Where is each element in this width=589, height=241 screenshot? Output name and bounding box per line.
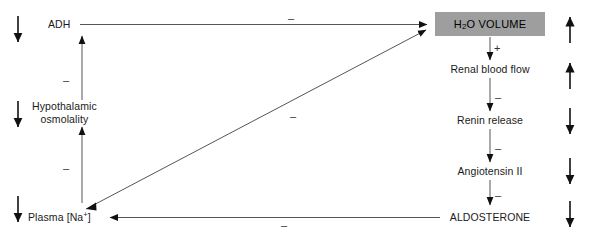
- node-renin-release-label: Renin release: [457, 114, 523, 126]
- node-angiotensin-ii-label: Angiotensin II: [457, 165, 522, 177]
- node-h2o-volume-box: H2O VOLUME: [435, 12, 545, 36]
- node-renal-blood-flow: Renal blood flow: [450, 63, 529, 76]
- node-hypothalamic-osmolality: Hypothalamic osmolality: [32, 100, 97, 126]
- sign-aldosterone-to-plasma: –: [281, 220, 287, 231]
- node-h2o-volume-label-post: O VOLUME: [467, 18, 527, 30]
- node-plasma-sodium: Plasma [Na+]: [28, 211, 91, 224]
- node-h2o-volume-label-pre: H: [454, 18, 462, 30]
- feedback-loop-diagram: ADH Hypothalamic osmolality Plasma [Na+]…: [0, 0, 589, 241]
- sign-angiotensin-to-aldosterone: –: [495, 190, 501, 201]
- node-renal-blood-flow-label: Renal blood flow: [450, 63, 529, 75]
- node-aldosterone: ALDOSTERONE: [450, 211, 530, 224]
- sign-plasma-to-h2o: –: [290, 111, 296, 122]
- node-hypothalamic-osmolality-line2: osmolality: [32, 113, 97, 126]
- sign-osmolality-to-adh: –: [63, 75, 69, 86]
- node-adh-label: ADH: [48, 18, 70, 30]
- node-angiotensin-ii: Angiotensin II: [457, 165, 522, 178]
- node-hypothalamic-osmolality-line1: Hypothalamic: [32, 100, 97, 113]
- sign-renal-to-renin: –: [495, 92, 501, 103]
- node-h2o-volume-subscript: 2: [462, 22, 467, 31]
- node-plasma-sodium-label-post: ]: [88, 211, 91, 223]
- edge-plasma-na-to-h2o-volume: [86, 30, 426, 209]
- sign-renin-to-angiotensin: –: [495, 143, 501, 154]
- node-renin-release: Renin release: [457, 114, 523, 127]
- sign-adh-to-h2o: –: [288, 13, 294, 24]
- sign-plasma-to-osmolality: –: [63, 163, 69, 174]
- node-adh: ADH: [48, 18, 70, 31]
- sign-h2o-to-renal: +: [494, 43, 500, 54]
- node-plasma-sodium-label-pre: Plasma [Na: [28, 211, 83, 223]
- node-aldosterone-label: ALDOSTERONE: [450, 211, 530, 223]
